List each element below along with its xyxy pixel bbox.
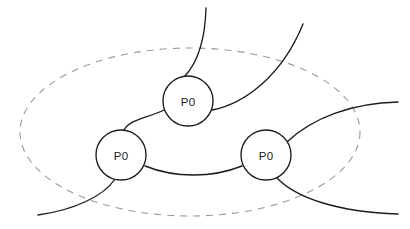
- node-top-label: P0: [181, 96, 196, 108]
- edge-top-to-northeast-stub: [212, 24, 303, 110]
- node-right-label: P0: [259, 150, 274, 162]
- edge-right-to-southeast-stub: [277, 178, 398, 214]
- node-top[interactable]: P0: [163, 76, 213, 126]
- node-left-label: P0: [114, 150, 129, 162]
- edge-left-to-southwest-stub: [38, 179, 115, 215]
- node-right[interactable]: P0: [241, 130, 291, 180]
- edge-right-to-east-stub: [287, 102, 398, 142]
- diagram-canvas: P0 P0 P0: [0, 0, 410, 229]
- edge-top-to-north-stub: [185, 8, 206, 76]
- edge-left-to-right: [145, 166, 242, 175]
- network-topology-diagram: P0 P0 P0: [0, 0, 410, 229]
- dashed-boundary-ellipse: [20, 48, 360, 216]
- node-left[interactable]: P0: [96, 130, 146, 180]
- edge-top-to-left: [124, 110, 164, 130]
